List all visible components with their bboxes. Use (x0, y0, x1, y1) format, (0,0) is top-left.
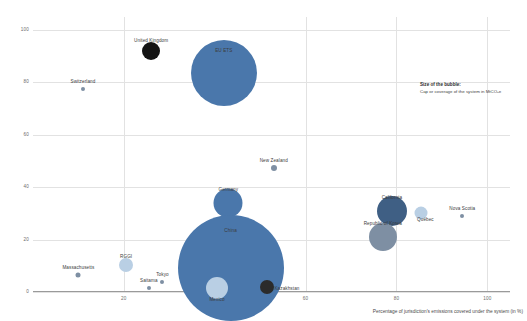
gridline-horizontal (33, 135, 510, 136)
x-tick-label: 20 (112, 296, 136, 301)
y-tick-label: 80 (11, 79, 29, 84)
bubble-massachusetts[interactable] (76, 272, 81, 277)
point-label: New Zealand (260, 158, 288, 163)
y-tick-label: 20 (11, 237, 29, 242)
plot-area: United KingdomEU ETSSwitzerlandNew Zeala… (33, 17, 510, 292)
point-label: China (224, 228, 237, 233)
point-label: Kazakhstan (274, 286, 299, 291)
point-label: EU ETS (215, 48, 232, 53)
gridline-horizontal (33, 30, 510, 31)
bubble-size-legend-body: Cap or coverage of the system in MtCO₂e (420, 89, 524, 95)
point-label: Massachusetts (62, 265, 94, 270)
bubble-mexico[interactable] (206, 277, 228, 299)
bubble-germany[interactable] (214, 188, 243, 217)
point-label: United Kingdom (134, 38, 168, 43)
point-label: Québec (417, 217, 434, 222)
bubble-tokyo[interactable] (160, 280, 164, 284)
bubble-nova-scotia[interactable] (460, 214, 464, 218)
point-label: Mexico (209, 297, 224, 302)
bubble-saitama[interactable] (147, 286, 151, 290)
point-label: Tokyo (156, 272, 169, 277)
bubble-kazakhstan[interactable] (260, 280, 274, 294)
gridline-vertical (487, 17, 488, 292)
x-tick-label: 100 (475, 296, 499, 301)
y-tick-label: 100 (11, 27, 29, 32)
bubble-size-legend-title: Size of the bubble: (420, 82, 524, 89)
y-tick-label: 40 (11, 184, 29, 189)
point-label: Republic of Korea (364, 221, 402, 226)
x-tick-label: 60 (294, 296, 318, 301)
point-label: RGGI (120, 254, 132, 259)
bubble-switzerland[interactable] (81, 87, 85, 91)
x-tick-label: 80 (384, 296, 408, 301)
point-label: Saitama (140, 278, 158, 283)
gridline-vertical (124, 17, 125, 292)
gridline-horizontal (33, 187, 510, 188)
point-label: Nova Scotia (449, 206, 475, 211)
bubble-rggi[interactable] (119, 258, 133, 272)
bubble-new-zealand[interactable] (271, 165, 277, 171)
gridline-vertical (306, 17, 307, 292)
y-tick-label: 0 (11, 289, 29, 294)
bubble-republic-of-korea[interactable] (369, 223, 397, 251)
point-label: Switzerland (71, 79, 96, 84)
y-tick-label: 60 (11, 132, 29, 137)
gridline-vertical (396, 17, 397, 292)
x-axis-title: Percentage of jurisdiction's emissions c… (373, 309, 523, 314)
bubble-size-legend: Size of the bubble: Cap or coverage of t… (420, 82, 524, 95)
point-label: California (382, 195, 402, 200)
point-label: Germany (219, 187, 239, 192)
bubble-united-kingdom[interactable] (142, 42, 160, 60)
